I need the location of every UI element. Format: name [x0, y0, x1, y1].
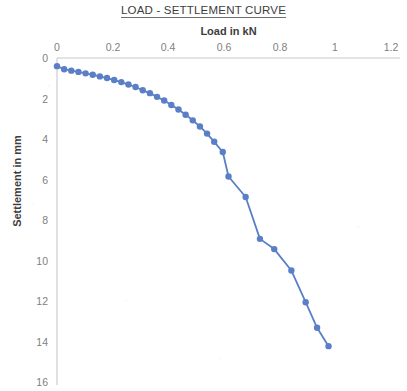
- data-point: [61, 66, 67, 72]
- load-settlement-line: [57, 66, 329, 346]
- data-point: [104, 75, 110, 81]
- data-point: [242, 194, 248, 200]
- data-point: [225, 173, 231, 179]
- data-point: [54, 63, 60, 69]
- data-point: [271, 246, 277, 252]
- data-point: [111, 77, 117, 83]
- data-point: [325, 343, 331, 349]
- data-point: [168, 102, 174, 108]
- data-point: [140, 87, 146, 93]
- data-point: [314, 325, 320, 331]
- data-point: [204, 130, 210, 136]
- load-settlement-markers: [54, 63, 332, 349]
- data-point: [75, 69, 81, 75]
- data-point: [288, 267, 294, 273]
- data-point: [132, 84, 138, 90]
- data-point: [82, 70, 88, 76]
- data-point: [182, 112, 188, 118]
- data-point: [257, 236, 263, 242]
- data-point: [197, 123, 203, 129]
- data-point: [147, 90, 153, 96]
- plot-area: [0, 0, 407, 391]
- data-point: [220, 149, 226, 155]
- data-point: [190, 117, 196, 123]
- data-point: [161, 97, 167, 103]
- data-point: [125, 81, 131, 87]
- data-point: [90, 72, 96, 78]
- data-point: [97, 73, 103, 79]
- data-point: [175, 106, 181, 112]
- data-point: [118, 79, 124, 85]
- data-point: [211, 139, 217, 145]
- data-point: [68, 67, 74, 73]
- data-point: [154, 94, 160, 100]
- data-point: [302, 299, 308, 305]
